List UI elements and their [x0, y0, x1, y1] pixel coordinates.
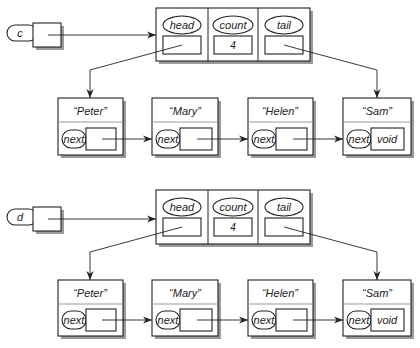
next-label: next	[64, 314, 86, 326]
next-label: next	[349, 133, 371, 145]
node-item: “Sam”	[362, 287, 393, 299]
field-label: tail	[277, 19, 292, 31]
next-label: next	[158, 133, 180, 145]
next-label: next	[349, 314, 371, 326]
node-item: “Mary”	[169, 287, 202, 299]
node-item: “Helen”	[262, 105, 299, 117]
node-helen: “Helen” next	[248, 98, 316, 158]
variable-c: c	[7, 23, 64, 50]
next-label: next	[254, 314, 276, 326]
next-label: next	[64, 133, 86, 145]
field-label: head	[170, 19, 195, 31]
field-label: count	[220, 19, 248, 31]
node-sam: “Sam” next void	[343, 98, 414, 158]
node-item: “Helen”	[262, 287, 299, 299]
variable-name: d	[17, 211, 24, 223]
field-label: tail	[277, 201, 292, 213]
node-helen: “Helen” next	[248, 280, 316, 339]
field-label: head	[170, 201, 195, 213]
node-peter: “Peter” next	[58, 280, 126, 339]
count-value: 4	[230, 40, 236, 51]
next-label: next	[254, 133, 276, 145]
variable-d: d	[7, 207, 64, 234]
node-item: “Peter”	[73, 105, 108, 117]
node-item: “Peter”	[73, 287, 108, 299]
node-item: “Mary”	[169, 105, 202, 117]
void-value: void	[377, 133, 398, 145]
variable-name: c	[17, 27, 23, 39]
node-mary: “Mary” next	[152, 280, 221, 339]
list-header-object: head count 4 tail	[156, 190, 313, 247]
void-value: void	[377, 314, 398, 326]
field-label: count	[220, 201, 248, 213]
node-sam: “Sam” next void	[343, 280, 414, 339]
node-item: “Sam”	[362, 105, 393, 117]
list-d: d head count 4 tail	[7, 190, 414, 339]
node-peter: “Peter” next	[58, 98, 126, 158]
count-value: 4	[230, 222, 236, 233]
linked-list-diagram: c head count 4	[0, 0, 420, 348]
list-c: c head count 4	[7, 8, 414, 158]
next-label: next	[158, 314, 180, 326]
node-mary: “Mary” next	[152, 98, 221, 158]
list-header-object: head count 4 tail	[156, 8, 313, 64]
